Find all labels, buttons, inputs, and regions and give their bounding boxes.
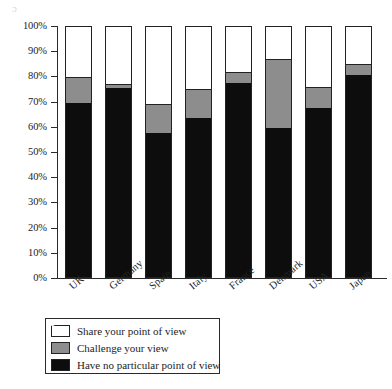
segment-divider [346, 64, 371, 65]
bar-stack-spain [145, 26, 172, 278]
bar-column [145, 26, 172, 278]
bar-column [185, 26, 212, 278]
y-axis-tick-label: 40% [28, 172, 47, 182]
bar-series-group [58, 26, 378, 278]
y-axis-tick [51, 127, 57, 128]
segment-no-particular-point-of-view [306, 108, 331, 277]
y-axis-tick [51, 253, 57, 254]
segment-divider [146, 104, 171, 105]
legend: Share your point of view Challenge your … [45, 318, 220, 374]
y-axis-tick-label: 80% [28, 71, 47, 81]
segment-challenge-your-view [146, 105, 171, 132]
y-axis-tick-label: 10% [28, 248, 47, 258]
bar-column [265, 26, 292, 278]
y-axis-tick-label: 50% [28, 147, 47, 157]
y-axis-tick [51, 202, 57, 203]
bar-column [345, 26, 372, 278]
y-axis-tick [51, 26, 57, 27]
segment-no-particular-point-of-view [106, 88, 131, 277]
legend-item: Share your point of view [51, 322, 214, 339]
bar-column [305, 26, 332, 278]
legend-swatch-share-icon [51, 325, 70, 337]
bar-column [105, 26, 132, 278]
x-axis-line [57, 278, 387, 279]
segment-challenge-your-view [106, 85, 131, 87]
legend-item: Challenge your view [51, 339, 214, 356]
segment-divider [226, 72, 251, 73]
bar-stack-japan [345, 26, 372, 278]
segment-challenge-your-view [266, 60, 291, 127]
bar-column [225, 26, 252, 278]
y-axis-tick [51, 177, 57, 178]
y-axis-tick-label: 20% [28, 223, 47, 233]
segment-no-particular-point-of-view [66, 103, 91, 277]
segment-no-particular-point-of-view [186, 118, 211, 277]
segment-divider [106, 84, 131, 85]
legend-label-share: Share your point of view [77, 325, 186, 337]
y-axis-tick-label: 100% [23, 21, 47, 31]
segment-no-particular-point-of-view [226, 83, 251, 277]
segment-no-particular-point-of-view [346, 75, 371, 277]
scan-artifact: ɔ [12, 2, 26, 12]
y-axis-tick [51, 278, 57, 279]
segment-divider [306, 87, 331, 88]
y-axis-tick [51, 228, 57, 229]
legend-label-no-view: Have no particular point of view [77, 359, 220, 371]
y-axis-tick [51, 152, 57, 153]
y-axis-tick [51, 76, 57, 77]
legend-label-challenge: Challenge your view [77, 342, 169, 354]
stacked-bar-chart: ɔ 100%90%80%70%60%50%40%30%20%10%0% UKGe… [0, 0, 392, 389]
segment-challenge-your-view [186, 90, 211, 117]
y-axis-tick [51, 102, 57, 103]
segment-divider [266, 59, 291, 60]
y-axis-tick [51, 51, 57, 52]
swatch-speck [50, 322, 55, 326]
segment-challenge-your-view [66, 78, 91, 103]
bar-stack-italy [185, 26, 212, 278]
y-axis-tick-label: 60% [28, 122, 47, 132]
bar-column [65, 26, 92, 278]
segment-no-particular-point-of-view [146, 133, 171, 277]
bar-stack-usa [305, 26, 332, 278]
segment-challenge-your-view [226, 73, 251, 83]
legend-swatch-no-view-icon [51, 359, 70, 371]
bar-stack-france [225, 26, 252, 278]
bar-stack-denmark [265, 26, 292, 278]
legend-item: Have no particular point of view [51, 356, 214, 373]
y-axis-tick-label: 30% [28, 197, 47, 207]
segment-challenge-your-view [306, 88, 331, 108]
bar-stack-uk [65, 26, 92, 278]
segment-divider [186, 89, 211, 90]
segment-divider [66, 77, 91, 78]
y-axis-tick-label: 0% [33, 273, 47, 283]
y-axis-tick-label: 70% [28, 97, 47, 107]
bar-stack-germany [105, 26, 132, 278]
y-axis-tick-label: 90% [28, 46, 47, 56]
legend-swatch-challenge-icon [51, 342, 70, 354]
segment-challenge-your-view [346, 65, 371, 75]
segment-no-particular-point-of-view [266, 128, 291, 277]
scan-speck [49, 112, 56, 119]
